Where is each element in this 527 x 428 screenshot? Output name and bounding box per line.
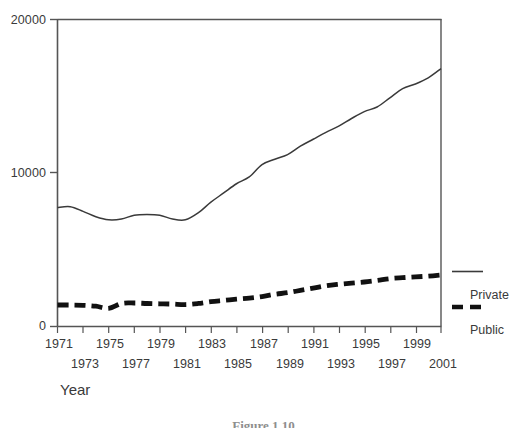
x-tick-label-1981: 1981 bbox=[173, 357, 201, 371]
series-line-private bbox=[58, 69, 442, 221]
x-axis-title: Year bbox=[60, 381, 90, 398]
x-tick-label-1997: 1997 bbox=[378, 357, 406, 371]
y-axis-ticks bbox=[50, 20, 58, 327]
x-tick-label-1987: 1987 bbox=[250, 337, 278, 351]
x-tick-label-1971: 1971 bbox=[45, 337, 73, 351]
x-tick-label-1973: 1973 bbox=[71, 357, 99, 371]
x-axis-ticks bbox=[58, 327, 442, 334]
x-tick-label-2001: 2001 bbox=[429, 357, 457, 371]
x-tick-label-1985: 1985 bbox=[224, 357, 252, 371]
x-tick-label-1993: 1993 bbox=[327, 357, 355, 371]
x-tick-label-1989: 1989 bbox=[276, 357, 304, 371]
figure-container: 0 10000 20000 1971 1975 1979 1983 1987 1… bbox=[0, 0, 527, 428]
y-tick-label-20000: 20000 bbox=[0, 13, 46, 27]
figure-caption: Figure 1.10 bbox=[0, 419, 527, 428]
x-tick-label-1979: 1979 bbox=[147, 337, 175, 351]
series-line-public bbox=[58, 275, 442, 308]
x-tick-label-1975: 1975 bbox=[96, 337, 124, 351]
legend-label-private: Private bbox=[470, 288, 509, 302]
x-tick-label-1991: 1991 bbox=[301, 337, 329, 351]
y-tick-label-0: 0 bbox=[6, 319, 46, 333]
legend-label-public: Public bbox=[470, 323, 504, 337]
data-series-layer bbox=[58, 69, 442, 309]
x-tick-label-1977: 1977 bbox=[122, 357, 150, 371]
x-tick-label-1983: 1983 bbox=[198, 337, 226, 351]
x-tick-label-1995: 1995 bbox=[352, 337, 380, 351]
x-tick-label-1999: 1999 bbox=[403, 337, 431, 351]
y-tick-label-10000: 10000 bbox=[0, 166, 46, 180]
